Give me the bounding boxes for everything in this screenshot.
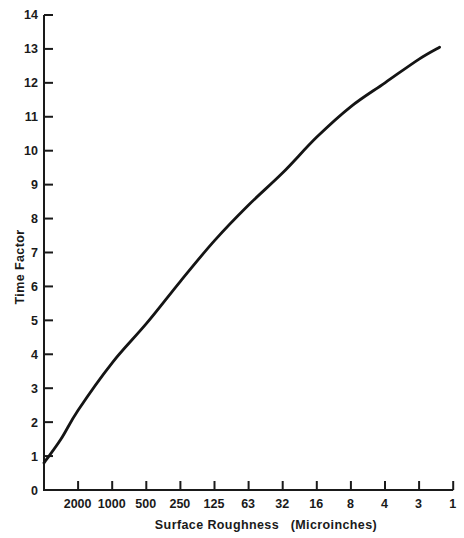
x-tick-label: 500	[135, 497, 156, 511]
x-tick-label: 16	[309, 497, 323, 511]
y-tick-label: 6	[31, 280, 38, 294]
data-curve	[44, 47, 440, 463]
y-tick-label: 3	[31, 382, 38, 396]
y-tick-label: 7	[31, 246, 38, 260]
x-tick-label: 1000	[98, 497, 126, 511]
y-tick-label: 14	[24, 8, 38, 22]
y-tick-label: 5	[31, 314, 38, 328]
x-tick-label: 63	[241, 497, 255, 511]
x-tick-label: 125	[204, 497, 225, 511]
x-tick-label: 1	[449, 497, 456, 511]
x-tick-label: 2000	[64, 497, 92, 511]
y-tick-label: 8	[31, 212, 38, 226]
y-tick-label: 4	[31, 348, 38, 362]
y-tick-label: 2	[31, 416, 38, 430]
x-tick-label: 8	[347, 497, 354, 511]
y-axis-title: Time Factor	[13, 229, 27, 304]
time-factor-chart: 01234567891011121314 2000100050025012563…	[0, 0, 464, 538]
x-tick-label: 32	[275, 497, 289, 511]
x-tick-label: 250	[169, 497, 190, 511]
y-tick-label: 11	[25, 110, 38, 124]
x-tick-label: 3	[415, 497, 422, 511]
x-axis: 200010005002501256332168431	[43, 481, 456, 511]
y-tick-label: 12	[24, 76, 38, 90]
x-axis-title: Surface Roughness (Microinches)	[155, 518, 377, 532]
y-tick-label: 10	[24, 144, 38, 158]
x-tick-label: 4	[381, 497, 388, 511]
y-tick-label: 13	[24, 42, 38, 56]
y-axis: 01234567891011121314	[24, 8, 53, 497]
y-tick-label: 9	[31, 178, 38, 192]
y-tick-label: 0	[31, 484, 38, 498]
y-tick-label: 1	[31, 450, 38, 464]
